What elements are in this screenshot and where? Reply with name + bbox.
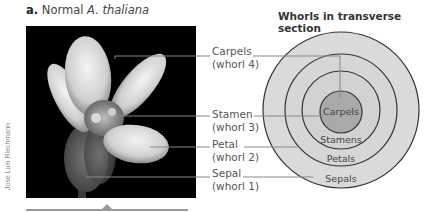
bottom-rule-marker [102,204,112,209]
ring-label-petals: Petals [327,153,355,164]
ring-label-sepals: Sepals [325,173,356,184]
bottom-rule [26,209,188,211]
whorl-diagram: Carpels Stamens Petals Sepals [0,0,439,212]
ring-label-stamens: Stamens [320,134,362,145]
ring-label-carpels: Carpels [323,106,359,117]
